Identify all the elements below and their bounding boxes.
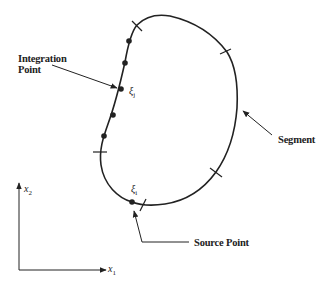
integration-point-label: Integration Point: [18, 53, 67, 75]
source-point-arrow: [134, 211, 189, 242]
integration-point-dot: [118, 86, 124, 92]
integration-point-label-line1: Integration: [18, 53, 67, 64]
integration-point-dot: [101, 133, 107, 139]
xi-i-symbol: ξi: [131, 184, 137, 195]
boundary-curve: [100, 15, 237, 205]
xi-j-subscript: j: [133, 91, 135, 99]
x2-axis-label: x2: [24, 184, 32, 195]
segment-tick: [210, 168, 222, 177]
x2-subscript: 2: [28, 189, 32, 197]
xi-i-subscript: i: [135, 189, 137, 197]
integration-point-dot: [110, 112, 116, 118]
integration-point-dot: [122, 60, 128, 66]
xi-j-symbol: ξj: [129, 86, 135, 97]
integration-point-label-line2: Point: [18, 64, 67, 75]
x1-axis-label: x1: [108, 264, 116, 275]
boundary-element-diagram: Integration Point Segment Source Point ξ…: [0, 0, 330, 288]
segment-label: Segment: [278, 134, 315, 145]
source-point-label: Source Point: [194, 237, 249, 248]
integration-point-dot: [126, 38, 132, 44]
x1-subscript: 1: [112, 269, 116, 277]
segment-arrow: [243, 111, 272, 135]
source-point-dot: [129, 199, 135, 205]
